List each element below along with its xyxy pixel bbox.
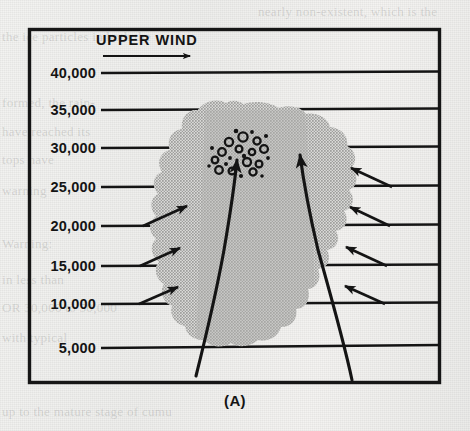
inflow-arrow-right-20000 [350,207,390,226]
axis-tick-label-40000: 40,000 [50,65,96,81]
rain-particle [266,156,270,160]
axis-tick-label-20000: 20,000 [50,218,96,234]
inflow-arrows-right [345,168,392,304]
inflow-arrow-right-10000 [345,286,385,304]
rain-particle [228,156,232,160]
cumulonimbus-cloud [140,90,370,360]
axis-tick-label-30000: 30,000 [50,140,96,156]
rain-particle [207,164,211,168]
gridline-40000 [101,72,440,74]
rain-particle [234,129,239,134]
rain-particle [260,174,264,178]
rain-particle [239,174,243,178]
rain-particle [210,146,214,150]
inflow-arrow-right-25000 [351,168,392,187]
upper-wind-label: UPPER WIND [96,32,198,48]
axis-tick-label-5000: 5,000 [59,340,96,356]
figure-caption: (A) [0,392,470,409]
rain-particle [250,130,254,134]
axis-tick-label-25000: 25,000 [50,179,96,195]
gridline-5000 [101,345,440,348]
axis-tick-label-35000: 35,000 [50,102,96,118]
rain-particle [264,134,268,138]
inflow-arrow-right-15000 [346,247,387,266]
thunderstorm-cross-section-figure: UPPER WIND 40,000 35,000 30,000 25,000 2… [0,0,470,431]
rain-particle [242,154,246,158]
axis-tick-label-15000: 15,000 [50,258,96,274]
rain-particle [224,162,228,166]
axis-tick-label-10000: 10,000 [50,296,96,312]
